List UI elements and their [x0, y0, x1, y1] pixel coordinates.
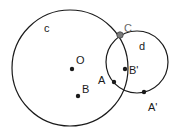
point-A-prime — [142, 90, 146, 94]
label-point-A: A — [98, 74, 106, 86]
label-circle-c: c — [44, 22, 50, 34]
point-B — [76, 94, 80, 98]
point-O — [70, 67, 74, 71]
label-point-A-prime: A' — [148, 101, 157, 113]
point-B-prime — [123, 67, 127, 71]
label-point-O: O — [76, 54, 85, 66]
point-A — [112, 80, 116, 84]
circle-c — [12, 10, 128, 126]
label-point-B-prime: B' — [129, 64, 138, 76]
geometry-diagram: c d O B A B' A' C — [0, 0, 179, 134]
point-C — [117, 32, 123, 38]
label-point-C: C — [124, 22, 132, 34]
label-circle-d: d — [139, 40, 145, 52]
label-point-B: B — [82, 83, 89, 95]
